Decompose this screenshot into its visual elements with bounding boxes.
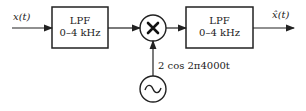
lpf2-range: 0–4 kHz [186,27,253,39]
block-diagram-lines [0,0,306,111]
lpf1-range: 0–4 kHz [52,27,108,39]
lpf2-title: LPF [186,15,253,27]
input-signal-label: x(t) [13,11,30,22]
lpf1-block: LPF 0–4 kHz [52,15,108,39]
lpf2-block: LPF 0–4 kHz [186,15,253,39]
output-signal-label: x̂(t) [272,9,289,20]
lpf1-title: LPF [52,15,108,27]
oscillator-label: 2 cos 2π4000t [158,60,230,71]
